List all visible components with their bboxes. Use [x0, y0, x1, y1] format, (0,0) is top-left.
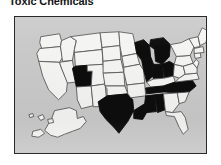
page-title: Toxic Chemicals [9, 0, 94, 7]
state-north-dakota [100, 32, 120, 48]
state-south-carolina [177, 92, 189, 104]
state-georgia [163, 93, 179, 113]
state-south-dakota [102, 46, 121, 62]
state-michigan [150, 38, 171, 65]
state-idaho [61, 37, 77, 62]
state-arizona [76, 86, 93, 109]
state-maine [198, 28, 206, 46]
state-hawaii-inset [38, 115, 45, 121]
state-kansas [103, 72, 125, 86]
state-indiana [153, 64, 164, 79]
state-arkansas [127, 83, 146, 98]
map-frame [14, 16, 207, 154]
state-ohio [162, 61, 174, 78]
state-missouri [124, 64, 145, 85]
state-minnesota [119, 32, 137, 57]
alaska-aleutian-chain [32, 129, 45, 137]
state-oregon [37, 47, 63, 63]
state-louisiana [134, 104, 147, 120]
state-texas [98, 94, 134, 133]
state-nebraska [103, 59, 124, 73]
state-washington [40, 34, 62, 49]
us-choropleth-map [15, 17, 206, 153]
state-florida [165, 112, 188, 135]
hawaii-island-3 [29, 114, 34, 118]
state-wyoming [74, 50, 103, 67]
hawaii-island-2 [48, 119, 54, 124]
